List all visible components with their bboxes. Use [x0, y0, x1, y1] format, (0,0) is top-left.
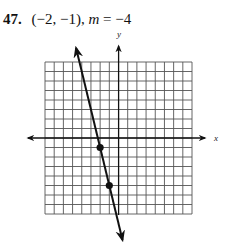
coordinate-graph: x y — [0, 0, 230, 244]
given-point — [97, 144, 104, 151]
plotted-line — [76, 48, 122, 240]
x-axis-label: x — [213, 133, 218, 143]
second-point — [106, 182, 113, 189]
y-axis-label: y — [116, 29, 121, 39]
